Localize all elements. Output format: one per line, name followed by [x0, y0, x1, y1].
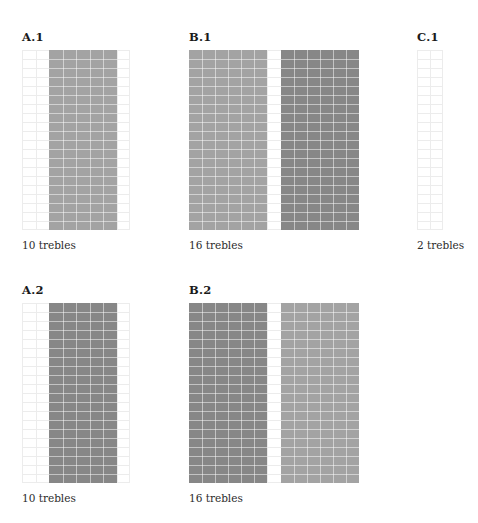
panel-caption-b2: 16 trebles — [189, 491, 243, 505]
stitch-block-a2-0 — [49, 303, 117, 483]
stitch-block-b1-0 — [189, 50, 267, 230]
panel-title-a1: A.1 — [22, 30, 44, 44]
stitch-block-b1-1 — [281, 50, 359, 230]
stitch-cell-lines — [281, 303, 359, 483]
stitch-grid-b2 — [189, 303, 359, 483]
stitch-block-b2-0 — [189, 303, 267, 483]
panel-caption-b1: 16 trebles — [189, 238, 243, 252]
stitch-cell-lines — [49, 50, 117, 230]
panel-title-b2: B.2 — [189, 283, 212, 297]
stitch-cell-lines — [189, 303, 267, 483]
panel-caption-a2: 10 trebles — [22, 491, 76, 505]
panel-caption-c1: 2 trebles — [417, 238, 464, 252]
stitch-block-a1-0 — [49, 50, 117, 230]
panel-title-a2: A.2 — [22, 283, 44, 297]
grid-lines-c1 — [417, 50, 443, 230]
stitch-cell-lines — [49, 303, 117, 483]
panel-title-c1: C.1 — [417, 30, 439, 44]
stitch-grid-b1 — [189, 50, 359, 230]
stitch-grid-a2 — [22, 303, 130, 483]
stitch-block-b2-1 — [281, 303, 359, 483]
stitch-cell-lines — [281, 50, 359, 230]
figure-root: A.110 treblesB.116 treblesC.12 treblesA.… — [0, 0, 478, 523]
stitch-grid-c1 — [417, 50, 443, 230]
panel-caption-a1: 10 trebles — [22, 238, 76, 252]
stitch-grid-a1 — [22, 50, 130, 230]
panel-title-b1: B.1 — [189, 30, 212, 44]
stitch-cell-lines — [189, 50, 267, 230]
